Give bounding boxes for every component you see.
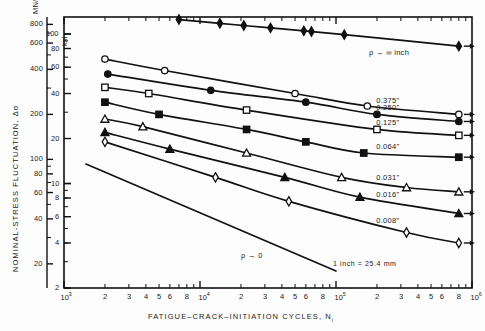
y-axis-primary-label: 60: [34, 188, 43, 197]
x-axis-minor-label: 8: [457, 292, 461, 301]
data-marker-open-square: [146, 90, 152, 96]
curve-label: 0.016": [376, 190, 399, 199]
y-axis-secondary-label: 20: [51, 134, 59, 143]
x-axis-minor-label: 6: [168, 292, 172, 301]
x-axis-decade-label: 104: [199, 291, 210, 302]
y-axis-secondary-label: 60: [51, 62, 59, 71]
data-marker-filled-circle: [456, 118, 462, 124]
x-axis-minor-label: 2: [103, 292, 107, 301]
curve-label: 0.008": [376, 216, 399, 225]
curve-label: 0.064": [376, 142, 399, 151]
data-marker-filled-diamond: [217, 19, 222, 28]
data-marker-filled-square: [361, 150, 367, 156]
y-axis-secondary-label: 8: [55, 193, 59, 202]
data-marker-open-square: [456, 132, 462, 138]
y-axis-secondary-label: 4: [55, 238, 59, 247]
x-axis-minor-label: 3: [399, 292, 403, 301]
x-axis-title: FATIGUE–CRACK–INITIATION CYCLES, Ni: [148, 312, 334, 323]
y-axis-secondary-unit: ksi: [60, 37, 69, 46]
data-marker-open-square: [243, 107, 249, 113]
y-axis-secondary-label: 80: [51, 44, 59, 53]
series-1: [102, 56, 475, 118]
data-marker-filled-diamond: [456, 41, 461, 50]
data-marker-filled-diamond: [301, 26, 306, 35]
data-marker-filled-square: [156, 111, 162, 117]
data-marker-open-diamond: [456, 238, 461, 247]
series-5: [101, 115, 475, 195]
x-axis-minor-label: 8: [321, 292, 325, 301]
data-marker-filled-diamond: [268, 23, 273, 32]
y-axis-primary-label: 80: [34, 169, 43, 178]
y-axis-title: NOMINAL-STRESS FLUCTUATION, Δσ: [11, 104, 20, 272]
series-line: [105, 59, 459, 114]
series-line: [105, 142, 459, 243]
y-axis-primary-label: 100: [30, 154, 43, 163]
x-axis-minor-label: 2: [375, 292, 379, 301]
data-marker-open-diamond: [286, 197, 291, 206]
x-axis-minor-label: 3: [263, 292, 267, 301]
x-axis-minor-label: 4: [144, 292, 148, 301]
annotation-rho-zero: ρ → 0: [241, 251, 263, 260]
figure-root: NOMINAL-STRESS FLUCTUATION, Δσ MN/m2 ksi…: [0, 0, 485, 331]
x-axis-minor-label: 5: [157, 292, 161, 301]
y-axis-secondary-label: 6: [55, 212, 59, 221]
chart-canvas: [0, 0, 485, 331]
data-marker-filled-square: [102, 99, 108, 105]
axis-frame: [64, 17, 472, 288]
y-axis-primary-unit: MN/m2: [29, 0, 40, 14]
y-axis-primary-label: 800: [30, 19, 43, 28]
y-axis-secondary-label: 40: [51, 89, 59, 98]
y-axis-primary-label: 20: [34, 259, 43, 268]
curve-label: 0.125": [376, 118, 399, 127]
y-axis-primary-label: 600: [30, 38, 43, 47]
x-axis-minor-label: 4: [280, 292, 284, 301]
series-line: [105, 132, 459, 213]
data-marker-filled-square: [303, 139, 309, 145]
data-marker-open-triangle: [101, 115, 109, 122]
y-axis-secondary-label: 10: [51, 179, 59, 188]
x-axis-minor-label: 5: [429, 292, 433, 301]
x-axis-minor-label: 8: [185, 292, 189, 301]
series-0: [176, 15, 475, 51]
data-marker-filled-square: [456, 154, 462, 160]
curve-label: 0.031": [376, 173, 399, 182]
x-axis-decade-label: 103: [61, 291, 72, 302]
data-marker-filled-circle: [105, 71, 111, 77]
y-axis-secondary-label: 100: [46, 29, 59, 38]
data-marker-open-diamond: [213, 173, 218, 182]
y-axis-primary-label: 400: [30, 64, 43, 73]
data-marker-open-circle: [292, 90, 298, 96]
x-axis-minor-label: 6: [440, 292, 444, 301]
data-marker-filled-circle: [208, 87, 214, 93]
y-axis-primary-label: 200: [30, 109, 43, 118]
data-marker-open-diamond: [404, 228, 409, 237]
series-8: [86, 164, 336, 271]
data-marker-filled-diamond: [241, 21, 246, 30]
data-marker-filled-triangle: [101, 128, 109, 135]
series-7: [102, 137, 475, 247]
data-marker-filled-diamond: [342, 30, 347, 39]
data-marker-filled-circle: [303, 99, 309, 105]
data-marker-open-circle: [102, 56, 108, 62]
unit-conversion-note: 1 inch = 25.4 mm: [333, 260, 397, 267]
x-axis-minor-label: 2: [239, 292, 243, 301]
x-axis-decade-label: 105: [335, 291, 346, 302]
x-axis-minor-label: 3: [127, 292, 131, 301]
x-axis-minor-label: 5: [293, 292, 297, 301]
curve-label: 0.250": [376, 103, 399, 112]
x-axis-minor-label: 4: [416, 292, 420, 301]
data-marker-filled-diamond: [309, 27, 314, 36]
y-axis-secondary-label: 2: [55, 283, 59, 292]
data-marker-open-circle: [161, 67, 167, 73]
data-marker-open-circle: [456, 111, 462, 117]
data-marker-open-diamond: [102, 137, 107, 146]
data-marker-open-square: [102, 84, 108, 90]
x-axis-decade-label: 106: [471, 291, 482, 302]
x-axis-minor-label: 6: [304, 292, 308, 301]
series-line: [86, 164, 336, 271]
annotation-rho-infinity: ρ → ∞ inch: [369, 48, 409, 57]
data-marker-filled-square: [243, 126, 249, 132]
data-marker-open-circle: [364, 103, 370, 109]
y-axis-primary-label: 40: [34, 214, 43, 223]
